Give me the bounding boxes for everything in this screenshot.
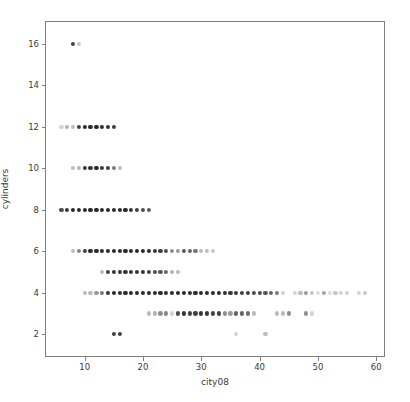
x-tick-mark — [318, 357, 319, 361]
x-tick-mark — [376, 357, 377, 361]
y-tick-mark — [42, 44, 46, 45]
x-tick-label: 10 — [79, 363, 90, 372]
x-tick-mark — [201, 357, 202, 361]
y-tick-label: 2 — [19, 330, 39, 339]
x-tick-label: 40 — [254, 363, 265, 372]
x-tick-mark — [260, 357, 261, 361]
y-tick-mark — [42, 85, 46, 86]
x-tick-mark — [85, 357, 86, 361]
y-tick-label: 6 — [19, 247, 39, 256]
y-tick-label: 12 — [19, 122, 39, 131]
x-tick-mark — [143, 357, 144, 361]
scatter-chart-figure: city08 cylinders 10203040506024681012141… — [0, 0, 410, 402]
y-tick-label: 8 — [19, 205, 39, 214]
y-tick-mark — [42, 127, 46, 128]
y-tick-mark — [42, 168, 46, 169]
x-tick-label: 60 — [371, 363, 382, 372]
y-tick-mark — [42, 293, 46, 294]
x-tick-label: 30 — [196, 363, 207, 372]
y-tick-mark — [42, 334, 46, 335]
plot-area — [45, 21, 385, 357]
x-tick-label: 20 — [138, 363, 149, 372]
x-axis-label: city08 — [201, 377, 229, 387]
y-tick-label: 4 — [19, 288, 39, 297]
y-tick-label: 10 — [19, 164, 39, 173]
y-tick-mark — [42, 210, 46, 211]
y-axis-label: cylinders — [0, 169, 10, 210]
y-tick-label: 16 — [19, 39, 39, 48]
y-tick-label: 14 — [19, 81, 39, 90]
y-tick-mark — [42, 251, 46, 252]
x-tick-label: 50 — [313, 363, 324, 372]
